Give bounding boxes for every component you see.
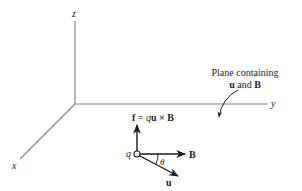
charge-label: q [126,148,131,159]
vectors: q B u θ [126,125,196,188]
plane-annotation: Plane containing u and B [212,67,279,117]
force-equation: f = qu × B [132,112,174,123]
x-axis [20,104,75,159]
u-vector-arrow-icon [140,156,178,176]
and-word: and [235,79,254,90]
theta-label: θ [160,157,165,167]
B-symbol: B [167,112,174,123]
x-axis-label: x [11,160,17,171]
y-axis-label: y [270,98,276,109]
u-vector-label: u [166,177,172,188]
angle-arc-icon [156,154,158,164]
lorentz-force-diagram: z y x Plane containing u and B f = qu × … [0,0,302,191]
cross-symbol: × [157,112,168,123]
equals-sign: = [135,112,146,123]
plane-annotation-line1: Plane containing [212,67,279,78]
B-symbol: B [254,79,261,90]
z-axis-label: z [71,8,76,19]
charge-circle-icon [134,151,140,157]
plane-annotation-line2: u and B [229,79,261,90]
B-vector-label: B [189,149,196,160]
